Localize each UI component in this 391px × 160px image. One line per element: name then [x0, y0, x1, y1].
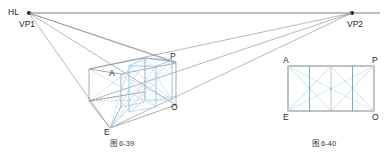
right-figure-caption: 图 6-40 — [312, 140, 336, 148]
right-point-label-O: O — [372, 113, 379, 122]
right-rectangle-group — [288, 66, 374, 111]
right-left-quarter-dot — [309, 88, 311, 90]
left-point-label-E: E — [104, 128, 110, 137]
vp2-ray-to-a — [89, 13, 352, 69]
blue-diag-cross-4 — [89, 58, 145, 101]
blue-diag-E-to-blue-top-right — [110, 66, 156, 128]
right-center-dot — [330, 88, 332, 90]
left-point-label-P: P — [170, 52, 176, 61]
hidden-edge-rear-horizontal — [89, 100, 145, 101]
right-point-label-A: A — [283, 56, 289, 65]
left-point-label-O: O — [171, 103, 178, 112]
horizon-line-group — [27, 11, 380, 15]
vp2-ray-to-base — [89, 13, 352, 101]
vanishing-point-2-label: VP2 — [347, 20, 363, 29]
right-intersection-dots — [309, 88, 354, 90]
box-left-top-edge — [89, 58, 144, 69]
vp1-ray-group — [29, 13, 176, 128]
left-point-label-A: A — [109, 69, 115, 78]
blue-bottom-front — [129, 107, 156, 112]
perspective-diagram — [0, 0, 391, 160]
box-left-bottom-edge — [89, 101, 110, 128]
right-point-label-E: E — [283, 113, 289, 122]
vp1-ray-to-top-front — [29, 13, 176, 63]
vanishing-point-1-label: VP1 — [19, 20, 35, 29]
right-right-quarter-dot — [352, 88, 354, 90]
right-point-label-P: P — [372, 56, 378, 65]
blue-diag-cross-1 — [129, 66, 172, 100]
left-figure-caption: 图 6-39 — [110, 140, 134, 148]
horizon-label: HL — [8, 8, 19, 17]
